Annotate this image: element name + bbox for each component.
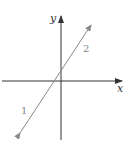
direction-label-2: 2	[83, 43, 89, 54]
x-axis-label: x	[117, 82, 124, 95]
direction-label-1: 1	[21, 105, 27, 116]
diagonal-line	[20, 25, 91, 133]
y-axis-label: y	[49, 12, 57, 25]
coordinate-diagram: y x 2 1	[0, 0, 137, 148]
